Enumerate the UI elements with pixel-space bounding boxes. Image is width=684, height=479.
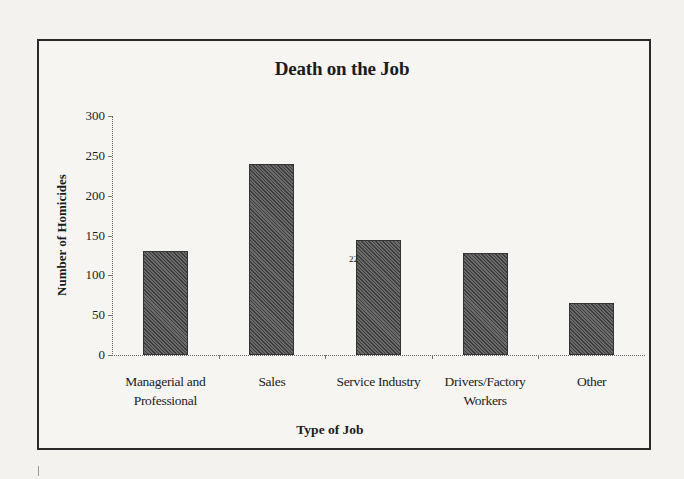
category-label-line: Workers (430, 391, 540, 410)
bar (143, 251, 188, 355)
bar (569, 303, 614, 355)
x-tick (432, 355, 433, 359)
y-tick-label: 250 (86, 148, 106, 164)
y-axis (112, 116, 113, 356)
y-tick (108, 236, 112, 237)
bar (463, 253, 508, 355)
category-label-line: Other (537, 372, 647, 391)
x-axis (112, 355, 645, 356)
bar (249, 164, 294, 355)
y-tick-label: 50 (92, 307, 105, 323)
y-tick (108, 156, 112, 157)
y-tick (108, 196, 112, 197)
x-tick (219, 355, 220, 359)
category-label: Service Industry (324, 372, 434, 391)
y-tick-label: 300 (86, 108, 106, 124)
category-label: Drivers/FactoryWorkers (430, 372, 540, 410)
category-label-line: Professional (110, 391, 220, 410)
category-label: Sales (217, 372, 327, 391)
y-tick-label: 200 (86, 188, 106, 204)
y-tick-label: 100 (86, 267, 106, 283)
y-tick (108, 116, 112, 117)
category-label-line: Service Industry (324, 372, 434, 391)
margin-mark (38, 466, 39, 476)
category-label: Other (537, 372, 647, 391)
category-label-line: Sales (217, 372, 327, 391)
chart-title: Death on the Job (0, 58, 684, 80)
y-tick (108, 275, 112, 276)
y-tick (108, 355, 112, 356)
y-tick-label: 0 (99, 347, 106, 363)
category-label: Managerial andProfessional (110, 372, 220, 410)
category-label-line: Drivers/Factory (430, 372, 540, 391)
x-tick (325, 355, 326, 359)
bar (356, 240, 401, 355)
category-label-line: Managerial and (110, 372, 220, 391)
y-axis-label: Number of Homicides (54, 174, 70, 296)
stray-annotation: 22 (349, 254, 358, 264)
x-tick (538, 355, 539, 359)
x-axis-label: Type of Job (296, 422, 363, 438)
y-tick (108, 315, 112, 316)
y-tick-label: 150 (86, 228, 106, 244)
